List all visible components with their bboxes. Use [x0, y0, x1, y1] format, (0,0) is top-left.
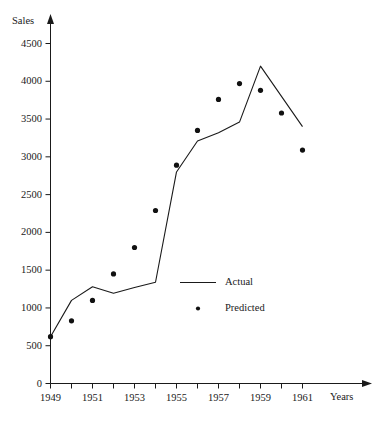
x-tick-label: 1955 [157, 393, 197, 404]
x-tick-label: 1961 [283, 393, 323, 404]
legend-label-predicted: Predicted [225, 303, 265, 314]
data-point [300, 147, 305, 152]
y-tick-label: 4000 [8, 76, 42, 87]
x-axis [51, 380, 373, 387]
legend-predicted-dot-swatch [196, 306, 200, 310]
y-tick-label: 3000 [8, 152, 42, 163]
data-point [111, 271, 116, 276]
data-point [69, 318, 74, 323]
x-tick-label: 1957 [199, 393, 239, 404]
y-axis-title: Sales [12, 16, 34, 27]
data-point [153, 208, 158, 213]
y-tick-label: 2000 [8, 227, 42, 238]
data-point [174, 163, 179, 168]
y-tick-label: 3500 [8, 114, 42, 125]
data-point [90, 298, 95, 303]
series-predicted-dots [48, 81, 305, 339]
y-axis-arrow [47, 14, 54, 24]
y-tick-label: 1000 [8, 303, 42, 314]
data-point [216, 97, 221, 102]
y-tick-label: 2500 [8, 190, 42, 201]
y-tick-label: 0 [8, 379, 42, 390]
x-tick-label: 1949 [31, 393, 71, 404]
data-point [195, 128, 200, 133]
series-actual-line [51, 66, 303, 336]
legend-label-actual: Actual [225, 277, 253, 288]
x-axis-arrow [362, 380, 372, 387]
data-point [258, 88, 263, 93]
x-tick-label: 1953 [115, 393, 155, 404]
data-point [237, 81, 242, 86]
x-axis-title: Years [330, 392, 353, 403]
x-tick-label: 1959 [241, 393, 281, 404]
x-tick-marks [51, 384, 303, 389]
y-tick-label: 1500 [8, 265, 42, 276]
x-tick-label: 1951 [73, 393, 113, 404]
y-tick-label: 4500 [8, 39, 42, 50]
chart-canvas [0, 0, 383, 430]
data-point [48, 334, 53, 339]
data-point [132, 245, 137, 250]
y-axis [47, 14, 54, 384]
sales-forecast-chart: Sales Years 0500100015002000250030003500… [0, 0, 383, 430]
y-tick-marks [46, 44, 51, 384]
data-point [279, 110, 284, 115]
y-tick-label: 500 [8, 341, 42, 352]
